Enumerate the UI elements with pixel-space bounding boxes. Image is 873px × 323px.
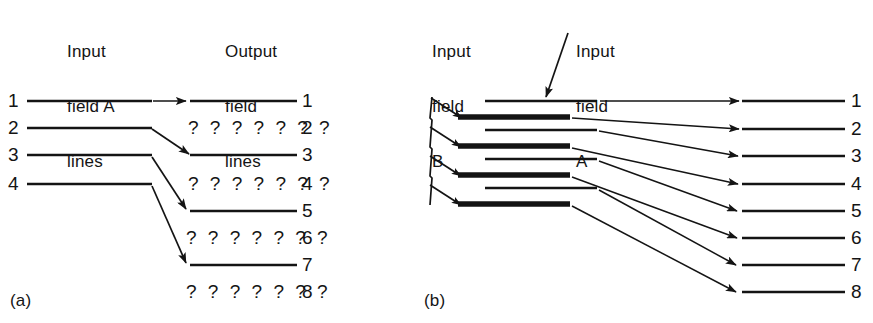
panel-a-unknown-row-8: ? ? ? ? ? ? ? (186, 282, 331, 301)
panel-a-caption: (a) (10, 292, 31, 309)
panel-b-connector-a4-to-7 (599, 190, 736, 265)
panel-b-output-number-7: 7 (851, 255, 862, 274)
panel-a-output-header-line-3: lines (225, 153, 277, 174)
panel-a-input-header-line-2: field A (67, 98, 115, 119)
panel-a-connector-4-to-7 (152, 186, 186, 263)
panel-b-output-number-6: 6 (851, 228, 862, 247)
panel-b-output-number-8: 8 (851, 282, 862, 301)
panel-a-connector-2-to-3 (152, 129, 189, 154)
panel-a-unknown-row-4: ? ? ? ? ? ? ? (188, 174, 333, 193)
panel-a-input-header-line-3: lines (67, 153, 115, 174)
panel-b-field-a-header-line-3: A (576, 153, 615, 174)
panel-b-field-b-header-line-2: field (432, 98, 471, 119)
panel-a-output-header-line-1: Output (225, 43, 277, 64)
panel-a-input-number-4: 4 (8, 174, 19, 193)
panel-a-input-number-2: 2 (8, 118, 19, 137)
panel-a-output-number-7: 7 (302, 255, 313, 274)
panel-a-input-number-1: 1 (8, 91, 19, 110)
panel-a-output-number-5: 5 (302, 201, 313, 220)
panel-b-output-number-2: 2 (851, 119, 862, 138)
panel-b-connector-b4-to-8 (572, 206, 736, 292)
panel-b-field-a-pointer (546, 33, 568, 97)
panel-b-field-a-pointer-arrow (546, 33, 568, 97)
panel-b-output-lines (742, 101, 845, 292)
panel-b-output-number-4: 4 (851, 174, 862, 193)
panel-a-unknown-row-6: ? ? ? ? ? ? ? (186, 228, 331, 247)
panel-b-field-b-header: Input field B (432, 9, 471, 208)
figure-canvas: Input field A lines Output field lines 1… (0, 0, 873, 323)
panel-a-connector-3-to-5 (152, 157, 186, 209)
panel-b-caption: (b) (424, 292, 445, 309)
panel-b-field-b-header-line-3: B (432, 153, 471, 174)
panel-b-field-b-header-line-1: Input (432, 43, 471, 64)
panel-a-output-number-1: 1 (302, 91, 313, 110)
panel-b-field-a-header: Input field A (576, 9, 615, 208)
panel-b-output-number-3: 3 (851, 146, 862, 165)
panel-a-output-header-line-2: field (225, 98, 277, 119)
panel-a-output-number-3: 3 (302, 145, 313, 164)
panel-a-connectors (152, 101, 189, 263)
panel-b-output-number-1: 1 (851, 91, 862, 110)
panel-b-field-a-header-line-1: Input (576, 43, 615, 64)
panel-b-field-a-header-line-2: field (576, 98, 615, 119)
panel-a-input-number-3: 3 (8, 145, 19, 164)
panel-a-input-header-line-1: Input (67, 43, 115, 64)
panel-a-unknown-row-2: ? ? ? ? ? ? ? (188, 118, 333, 137)
panel-b-connector-a2-to-3 (599, 131, 738, 156)
panel-b-output-number-5: 5 (851, 201, 862, 220)
panel-a-input-header: Input field A lines (67, 9, 115, 208)
